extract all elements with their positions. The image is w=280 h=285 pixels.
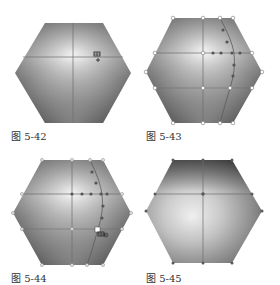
figure-5-45: 图 5-45 [0, 0, 280, 285]
figure-caption: 图 5-45 [146, 270, 182, 285]
hexagon-mesh-5-45 [0, 0, 280, 285]
